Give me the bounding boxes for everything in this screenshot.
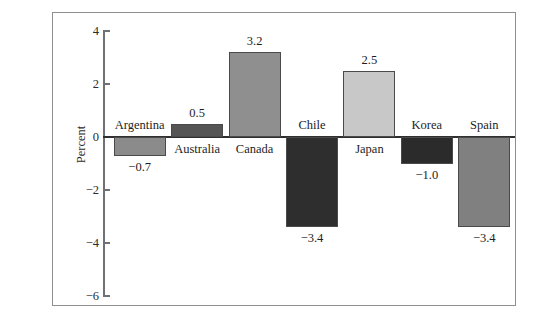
chart-frame: 420−2−4−6 −0.7Argentina0.5Australia3.2Ca…: [52, 12, 516, 306]
bar-value-label: −0.7: [100, 161, 180, 174]
y-tick: [103, 30, 110, 32]
plot-area: 420−2−4−6 −0.7Argentina0.5Australia3.2Ca…: [53, 13, 515, 305]
y-tick-label: −2: [55, 184, 99, 197]
y-tick: [103, 83, 110, 85]
bar-value-label: 2.5: [329, 54, 409, 67]
y-tick-label: −4: [55, 237, 99, 250]
figure-canvas: 420−2−4−6 −0.7Argentina0.5Australia3.2Ca…: [0, 0, 537, 316]
bar: [401, 137, 453, 164]
y-tick: [103, 242, 110, 244]
bar-value-label: −3.4: [444, 232, 524, 245]
y-tick-label: 2: [55, 78, 99, 91]
bar-category-label: Spain: [439, 119, 529, 132]
bar: [171, 124, 223, 137]
bar: [458, 137, 510, 227]
bar-value-label: −1.0: [387, 169, 467, 182]
y-tick: [103, 189, 110, 191]
bar-value-label: 0.5: [157, 107, 237, 120]
y-axis-label: Percent: [74, 115, 89, 175]
bar-value-label: −3.4: [272, 232, 352, 245]
y-tick-label: 4: [55, 25, 99, 38]
bar-value-label: 3.2: [215, 35, 295, 48]
y-tick: [103, 295, 110, 297]
y-tick-label: −6: [55, 290, 99, 303]
